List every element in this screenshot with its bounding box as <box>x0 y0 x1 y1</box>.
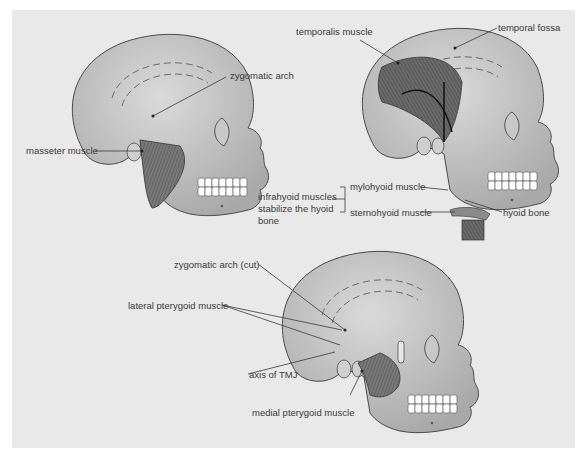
label-infrahyoid-note-line-1: infrahyoid muscles <box>258 191 337 202</box>
label-axis-of-tmj: axis of TMJ <box>249 369 297 380</box>
muscles-of-mastication-illustration <box>0 0 588 470</box>
label-temporal-fossa: temporal fossa <box>498 22 560 33</box>
label-temporalis-muscle: temporalis muscle <box>296 26 373 37</box>
label-hyoid-bone: hyoid bone <box>503 207 549 218</box>
skull-masseter <box>72 34 268 215</box>
label-masseter-muscle: masseter muscle <box>26 145 98 156</box>
label-lateral-pterygoid-muscle: lateral pterygoid muscle <box>128 300 228 311</box>
label-zygomatic-arch: zygomatic arch <box>230 70 294 81</box>
label-zygomatic-arch-cut: zygomatic arch (cut) <box>174 259 260 270</box>
label-sternohyoid-muscle: sternohyoid muscle <box>350 207 432 218</box>
label-mylohyoid-muscle: mylohyoid muscle <box>350 181 426 192</box>
label-medial-pterygoid-muscle: medial pterygoid muscle <box>252 407 354 418</box>
skull-pterygoid <box>282 251 478 432</box>
label-infrahyoid-note-line-2: stabilize the hyoid <box>258 203 334 214</box>
label-infrahyoid-note-line-3: bone <box>258 215 279 226</box>
